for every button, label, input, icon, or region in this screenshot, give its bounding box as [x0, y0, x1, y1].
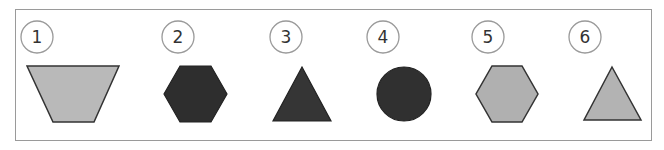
hexagon-shape — [476, 66, 538, 122]
item-number: 4 — [378, 27, 389, 47]
shapes-canvas: 1 2 3 4 5 6 — [0, 0, 664, 150]
item-number: 5 — [483, 27, 494, 47]
trapezoid-shape — [27, 66, 119, 122]
item-number: 1 — [32, 27, 43, 47]
item-3: 3 — [270, 21, 331, 121]
triangle-shape — [584, 67, 641, 120]
item-number: 2 — [173, 27, 184, 47]
item-2: 2 — [162, 21, 227, 122]
item-4: 4 — [367, 21, 431, 121]
item-5: 5 — [472, 21, 538, 122]
circle-shape — [377, 67, 431, 121]
triangle-shape — [273, 67, 331, 121]
item-1: 1 — [21, 21, 119, 122]
item-number: 6 — [580, 27, 591, 47]
item-number: 3 — [281, 27, 292, 47]
item-6: 6 — [569, 21, 641, 120]
hexagon-shape — [164, 66, 227, 122]
